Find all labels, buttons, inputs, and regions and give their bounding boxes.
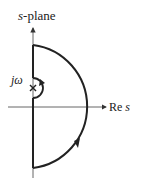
imaginary-axis-label: jω [9,73,23,87]
plane-title: s-plane [18,8,56,23]
nyquist-contour-diagram: s-plane jω Re s [0,0,144,185]
real-axis-label: Re s [109,100,130,114]
contour-semicircle [33,45,87,168]
